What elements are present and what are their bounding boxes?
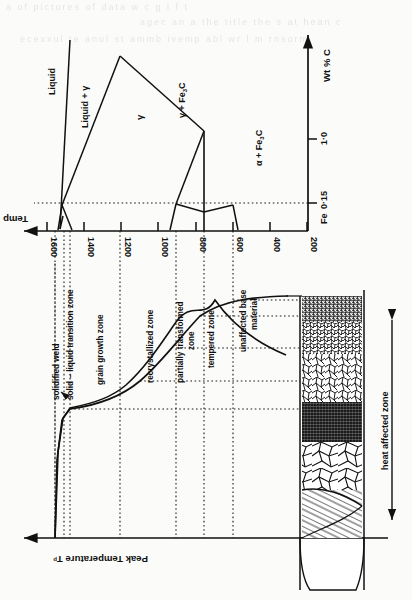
zone-label-unaffected-base: unaffected base	[239, 289, 248, 352]
haz-extent-label: heat affected zone	[380, 391, 390, 470]
label-gamma: γ	[134, 114, 145, 120]
tick-600: 600	[235, 237, 245, 252]
tick-1-0: 1·0	[319, 132, 329, 145]
composition-ticks	[308, 139, 317, 203]
tick-Fe: Fe	[319, 213, 329, 224]
zone-label-solid-liquid: solid – liquid transition zone	[66, 289, 75, 400]
composition-tick-labels: Fe 0·15 1·0 Wt % C	[319, 49, 332, 224]
zone-label-recrystallized: recrystallized zone	[146, 309, 155, 383]
tick-1200: 1200	[123, 237, 133, 257]
microstructure-bands	[302, 296, 362, 538]
solidus-line	[62, 56, 120, 205]
tick-200: 200	[309, 237, 319, 252]
weld-bead-outline	[300, 538, 364, 590]
tick-1600: 1600	[49, 237, 59, 257]
peak-temperature-curve-main	[55, 296, 288, 538]
composition-axis-title: Wt % C	[321, 49, 332, 82]
phase-boundaries	[58, 40, 238, 231]
alpha-boundary-left	[170, 204, 176, 230]
microstructure-sketch: heat affected zone	[286, 290, 392, 590]
label-liquid: Liquid	[47, 68, 57, 95]
figure-page: a of pictures of data w c g l f t agec a…	[0, 0, 412, 600]
band-recrystallized	[302, 352, 362, 402]
phase-to-haz-guides	[55, 231, 233, 538]
zone-label-tempered: tempered zone	[207, 310, 216, 368]
tick-800: 800	[198, 237, 208, 252]
a3-line	[176, 131, 204, 204]
zone-label-grain-growth: grain growth zone	[96, 314, 105, 385]
label-alpha-fe3c: α + Fe3C	[254, 129, 265, 166]
tick-1000: 1000	[160, 237, 170, 257]
zone-label-solidified-weld: solidified weld	[52, 344, 61, 400]
phase-diagram-panel: 1600 1400 1200 1000 800 600 400 200 Temp…	[3, 35, 332, 538]
figure-canvas: 1600 1400 1200 1000 800 600 400 200 Temp…	[0, 0, 412, 600]
tick-1400: 1400	[86, 237, 96, 257]
band-dark-transformed	[302, 400, 362, 442]
haz-axis-title: Peak Temperature Tp	[53, 554, 148, 565]
zone-label-partially-transformed: partially transformed	[176, 302, 185, 383]
temperature-tick-labels: 1600 1400 1200 1000 800 600 400 200	[49, 237, 319, 257]
label-liquid-gamma: Liquid + γ	[80, 86, 90, 128]
haz-zone-labels: solidified weld solid – liquid transitio…	[52, 289, 259, 400]
zone-label-partially-transformed-2: zone	[187, 331, 196, 350]
band-grain-growth	[302, 440, 362, 490]
band-unaffected-base	[302, 296, 362, 322]
liquidus-line	[60, 40, 70, 229]
band-partially-transformed	[302, 320, 362, 354]
tick-0-15: 0·15	[319, 191, 329, 209]
phase-region-labels: Liquid Liquid + γ γ γ + Fe3C α + Fe3C	[47, 68, 265, 166]
peak-temperature-curve	[55, 300, 286, 538]
phase-temp-axis-title: Temp	[3, 214, 28, 225]
label-gamma-fe3c: γ + Fe3C	[177, 82, 188, 118]
zone-label-unaffected-base-2: material	[250, 299, 259, 330]
acm-line	[120, 56, 204, 131]
band-solidified-weld	[302, 490, 362, 538]
tick-400: 400	[272, 237, 282, 252]
temperature-ticks	[47, 222, 307, 231]
